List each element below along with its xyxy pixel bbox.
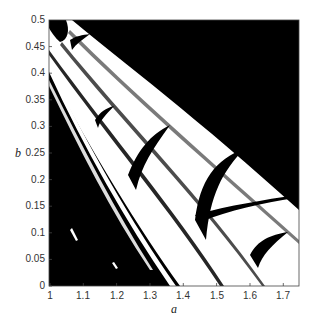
x-tick-label: 1.6 (235, 290, 265, 301)
plot-area (0, 0, 316, 323)
y-axis-label: b (15, 146, 21, 161)
x-tick-label: 1.7 (268, 290, 298, 301)
y-tick-label: 0.2 (15, 174, 45, 185)
x-tick-label: 1 (35, 290, 65, 301)
x-tick-label: 1.3 (135, 290, 165, 301)
heatmap-image (49, 20, 299, 286)
chart: 0 0.05 0.1 0.15 0.2 0.25 0.3 0.35 0.4 0.… (0, 0, 316, 323)
y-tick-label: 0.4 (15, 67, 45, 78)
x-axis-label: a (171, 302, 177, 317)
y-tick-label: 0.35 (15, 94, 45, 105)
y-tick-label: 0.15 (15, 200, 45, 211)
x-tick-label: 1.2 (102, 290, 132, 301)
y-tick-label: 0.3 (15, 120, 45, 131)
x-tick-label: 1.4 (168, 290, 198, 301)
y-tick-label: 0.5 (15, 14, 45, 25)
y-tick-label: 0.45 (15, 41, 45, 52)
x-tick-label: 1.5 (202, 290, 232, 301)
y-tick-label: 0.05 (15, 253, 45, 264)
y-tick-label: 0.1 (15, 227, 45, 238)
x-tick-label: 1.1 (68, 290, 98, 301)
